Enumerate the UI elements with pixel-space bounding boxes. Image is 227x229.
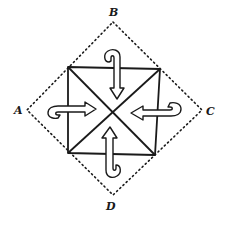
fold-arrow-bottom-icon xyxy=(102,127,120,177)
corner-label-a: A xyxy=(14,105,23,116)
corner-label-c: C xyxy=(206,106,215,117)
corner-label-b: B xyxy=(109,7,118,18)
fold-arrow-top-icon xyxy=(105,50,124,99)
corner-label-d: D xyxy=(106,201,116,212)
fold-arrow-right-icon xyxy=(131,103,181,120)
fold-diagram xyxy=(0,0,227,229)
fold-arrow-left-icon xyxy=(48,102,96,118)
